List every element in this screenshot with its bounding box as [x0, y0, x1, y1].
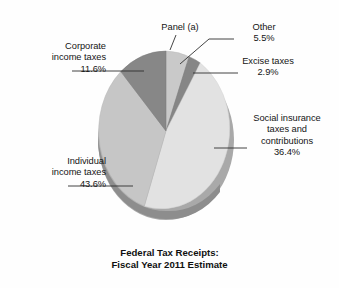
- slice-label-excise-taxes: Excise taxes 2.9%: [228, 56, 308, 79]
- panel-label: Panel (a): [142, 22, 218, 33]
- slice-label-individual-income-taxes: Individual income taxes 43.6%: [2, 156, 106, 190]
- slice-label-social-insurance: Social insurance taxes and contributions…: [240, 113, 334, 159]
- leader-line-panel: [170, 35, 176, 50]
- pie-chart-figure: Corporate income taxes 11.6% Individual …: [0, 0, 339, 288]
- chart-title: Federal Tax Receipts: Fiscal Year 2011 E…: [0, 247, 339, 271]
- slice-label-other: Other 5.5%: [236, 22, 292, 45]
- pie-slices: [99, 51, 230, 209]
- slice-label-corporate-income-taxes: Corporate income taxes 11.6%: [6, 41, 106, 75]
